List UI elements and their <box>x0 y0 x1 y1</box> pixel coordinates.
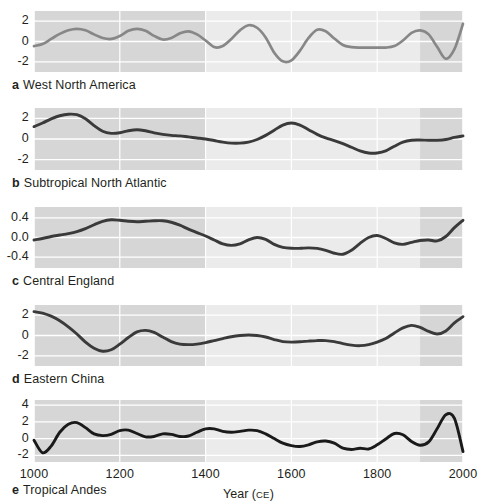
panel-title-d: Eastern China <box>24 372 105 386</box>
panel-caption-b: bSubtropical North Atlantic <box>12 176 167 190</box>
x-tick-label-1400: 1400 <box>191 467 220 481</box>
panel-title-e: Tropical Andes <box>23 483 107 497</box>
plot-area-a <box>0 11 486 72</box>
panel-title-a: West North America <box>23 78 136 92</box>
x-axis-title: Year (CE) <box>223 487 274 501</box>
panel-title-b: Subtropical North Atlantic <box>24 176 167 190</box>
panel-letter-b: b <box>12 176 20 190</box>
y-tick-label-e-1: 0 <box>0 431 29 445</box>
x-tick-label-1000: 1000 <box>20 467 49 481</box>
chart-panel-d <box>0 305 486 366</box>
plot-area-c <box>0 207 486 268</box>
y-tick-label-b-2: 2 <box>0 110 29 124</box>
panel-title-c: Central England <box>23 274 114 288</box>
y-tick-label-d-2: 2 <box>0 307 29 321</box>
plot-area-b <box>0 108 486 170</box>
x-tick-label-1600: 1600 <box>277 467 306 481</box>
y-tick-label-b-1: 0 <box>0 131 29 145</box>
plot-area-e <box>0 400 486 462</box>
y-tick-label-b-0: -2 <box>0 152 29 166</box>
y-tick-label-d-1: 0 <box>0 328 29 342</box>
chart-panel-b <box>0 108 486 170</box>
panel-caption-e: eTropical Andes <box>12 483 107 497</box>
x-axis-title-end: ) <box>270 487 274 501</box>
x-tick-label-2000: 2000 <box>449 467 478 481</box>
chart-panel-e <box>0 400 486 462</box>
panel-letter-e: e <box>12 483 19 497</box>
panel-letter-c: c <box>12 274 19 288</box>
y-tick-label-a-0: -2 <box>0 54 29 68</box>
x-tick-label-1800: 1800 <box>363 467 392 481</box>
x-tick-label-1200: 1200 <box>105 467 134 481</box>
panel-letter-a: a <box>12 78 19 92</box>
y-tick-label-c-2: 0.4 <box>0 210 29 224</box>
plot-area-d <box>0 305 486 366</box>
y-tick-label-a-1: 0 <box>0 34 29 48</box>
chart-panel-c <box>0 207 486 268</box>
x-axis-title-main: Year ( <box>223 487 256 501</box>
y-tick-label-c-1: 0.0 <box>0 230 29 244</box>
figure-panel-stack: -202aWest North America-202bSubtropical … <box>0 0 486 504</box>
y-tick-label-e-0: -2 <box>0 447 29 461</box>
panel-caption-c: cCentral England <box>12 274 114 288</box>
y-tick-label-e-3: 4 <box>0 397 29 411</box>
y-tick-label-a-2: 2 <box>0 13 29 27</box>
y-tick-label-d-0: -2 <box>0 348 29 362</box>
panel-letter-d: d <box>12 372 20 386</box>
y-tick-label-c-0: -0.4 <box>0 249 29 263</box>
panel-caption-d: dEastern China <box>12 372 104 386</box>
x-axis-title-era: CE <box>256 489 270 500</box>
chart-panel-a <box>0 11 486 72</box>
y-tick-label-e-2: 2 <box>0 414 29 428</box>
panel-caption-a: aWest North America <box>12 78 136 92</box>
